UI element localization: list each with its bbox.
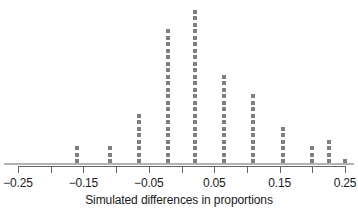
data-point xyxy=(166,120,170,124)
x-axis-tick xyxy=(18,166,19,173)
x-axis-tick-label: 0.05 xyxy=(203,176,226,190)
x-axis-tick xyxy=(51,166,52,173)
data-point xyxy=(108,146,112,150)
data-point xyxy=(222,88,226,92)
data-point xyxy=(193,114,197,118)
data-point xyxy=(108,153,112,157)
data-point xyxy=(222,81,226,85)
x-axis-tick xyxy=(149,166,150,173)
data-point xyxy=(166,146,170,150)
x-axis-label: Simulated differences in proportions xyxy=(0,193,358,207)
data-point xyxy=(222,120,226,124)
data-point xyxy=(137,153,141,157)
data-point xyxy=(310,146,314,150)
data-point xyxy=(222,75,226,79)
data-point xyxy=(193,140,197,144)
data-point xyxy=(222,94,226,98)
data-point xyxy=(193,23,197,27)
data-point xyxy=(281,127,285,131)
data-point xyxy=(251,114,255,118)
data-point xyxy=(193,127,197,131)
data-point xyxy=(251,127,255,131)
data-point xyxy=(193,133,197,137)
data-point xyxy=(193,107,197,111)
data-point xyxy=(193,36,197,40)
dotplot-figure: −0.25−0.15−0.050.050.150.25 Simulated di… xyxy=(0,0,358,210)
x-axis-tick xyxy=(116,166,117,173)
data-point xyxy=(327,146,331,150)
data-point xyxy=(137,140,141,144)
data-point xyxy=(166,68,170,72)
data-point xyxy=(137,120,141,124)
data-point xyxy=(281,133,285,137)
x-axis-line xyxy=(4,163,354,165)
data-point xyxy=(166,62,170,66)
data-point xyxy=(193,101,197,105)
dot-stack-layer xyxy=(0,0,358,166)
data-point xyxy=(193,120,197,124)
data-point xyxy=(75,153,79,157)
data-point xyxy=(281,140,285,144)
data-point xyxy=(193,55,197,59)
data-point xyxy=(193,68,197,72)
data-point xyxy=(222,127,226,131)
x-axis-tick xyxy=(247,166,248,173)
data-point xyxy=(166,75,170,79)
data-point xyxy=(310,153,314,157)
data-point xyxy=(251,101,255,105)
data-point xyxy=(193,146,197,150)
data-point xyxy=(222,133,226,137)
data-point xyxy=(193,16,197,20)
data-point xyxy=(166,81,170,85)
data-point xyxy=(166,55,170,59)
x-axis-tick-label: 0.25 xyxy=(334,176,357,190)
data-point xyxy=(251,107,255,111)
data-point xyxy=(327,140,331,144)
data-point xyxy=(251,133,255,137)
x-axis-tick xyxy=(182,166,183,173)
x-axis-tick-label: −0.25 xyxy=(3,176,32,190)
x-axis-tick xyxy=(280,166,281,173)
data-point xyxy=(193,29,197,33)
data-point xyxy=(193,81,197,85)
data-point xyxy=(75,146,79,150)
data-point xyxy=(193,75,197,79)
data-point xyxy=(166,127,170,131)
data-point xyxy=(193,10,197,14)
data-point xyxy=(222,114,226,118)
data-point xyxy=(222,140,226,144)
data-point xyxy=(222,153,226,157)
x-axis-tick xyxy=(83,166,84,173)
data-point xyxy=(193,42,197,46)
data-point xyxy=(166,133,170,137)
data-point xyxy=(166,36,170,40)
data-point xyxy=(327,153,331,157)
data-point xyxy=(166,29,170,33)
data-point xyxy=(193,62,197,66)
x-axis-tick-label: −0.15 xyxy=(69,176,98,190)
x-axis-tick-label: −0.05 xyxy=(134,176,163,190)
data-point xyxy=(166,88,170,92)
data-point xyxy=(166,140,170,144)
x-axis-tick xyxy=(214,166,215,173)
data-point xyxy=(251,120,255,124)
x-axis-ticklabel-layer: −0.25−0.15−0.050.050.150.25 xyxy=(0,176,358,190)
data-point xyxy=(166,107,170,111)
data-point xyxy=(166,114,170,118)
data-point xyxy=(251,94,255,98)
data-point xyxy=(193,153,197,157)
data-point xyxy=(251,140,255,144)
data-point xyxy=(222,101,226,105)
data-point xyxy=(251,153,255,157)
x-axis-tick-label: 0.15 xyxy=(268,176,291,190)
data-point xyxy=(166,49,170,53)
data-point xyxy=(137,146,141,150)
x-axis-tick-layer xyxy=(0,166,358,176)
data-point xyxy=(137,114,141,118)
data-point xyxy=(166,101,170,105)
x-axis-tick xyxy=(312,166,313,173)
data-point xyxy=(251,146,255,150)
data-point xyxy=(222,146,226,150)
data-point xyxy=(281,153,285,157)
data-point xyxy=(166,94,170,98)
